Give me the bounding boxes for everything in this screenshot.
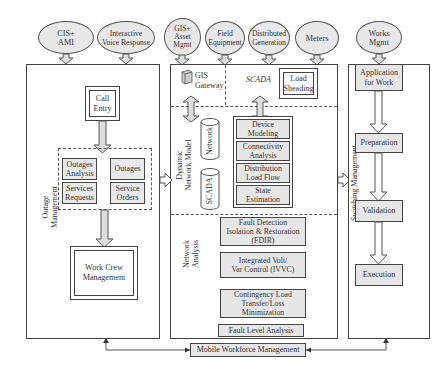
mobile-workforce-connectors <box>0 0 439 374</box>
